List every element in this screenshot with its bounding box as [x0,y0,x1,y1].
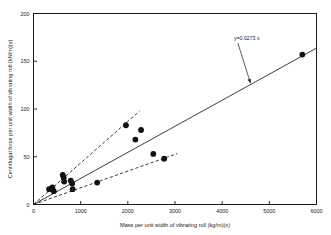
equation-annotation: y=0.0273 x [234,35,260,83]
fit-line-mean-fit-solid [34,48,317,204]
x-tick-label: 4000 [216,208,228,214]
data-point [69,181,75,187]
data-point [70,186,76,192]
annotation-arrow-head [248,79,251,84]
data-point [94,180,100,186]
x-tick-label: 3000 [169,208,181,214]
x-tick-label: 1000 [75,208,87,214]
y-tick-label: 50 [24,154,30,160]
data-point [61,179,67,185]
x-axis-tick-labels: 0100020003000400050006000 [32,208,323,214]
y-tick-label: 0 [27,202,30,208]
data-point [138,127,144,133]
y-tick-label: 150 [21,58,30,64]
plot-border [34,14,317,205]
data-point [299,52,305,58]
y-axis-label: Centrifugal force per unit width of vibr… [7,40,13,179]
annotation-arrow-line [238,43,251,83]
x-tick-label: 2000 [122,208,134,214]
chart-figure: 0100020003000400050006000 050100150200 y… [0,0,331,235]
data-points [46,52,305,194]
data-point [161,156,167,162]
y-tick-label: 100 [21,106,30,112]
fit-line-lower-bound-dashed [34,154,178,205]
chart-canvas: 0100020003000400050006000 050100150200 y… [0,0,331,235]
plot-frame [34,14,317,205]
data-point [150,151,156,157]
x-tick-label: 6000 [311,208,323,214]
y-tick-label: 200 [21,11,30,17]
x-axis-ticks [34,201,317,205]
x-tick-label: 5000 [263,208,275,214]
x-tick-label: 0 [32,208,35,214]
y-axis-tick-labels: 050100150200 [21,11,30,208]
x-axis-label: Mass per unit width of vibrating roll (k… [120,222,230,228]
fit-lines [34,48,317,204]
equation-annotation-text: y=0.0273 x [234,35,260,41]
data-point [132,137,138,143]
data-point [51,188,57,194]
y-axis-ticks [34,14,38,205]
data-point [123,122,129,128]
